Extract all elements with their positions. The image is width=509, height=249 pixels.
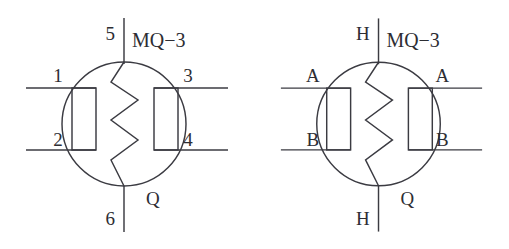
right-lower-pin-label: B	[436, 129, 449, 150]
diagram-svg-left: 5 MQ−3 6 Q 1 2 3 4	[0, 0, 255, 249]
top-lead-label: 5	[106, 23, 116, 44]
sensing-element-zigzag	[111, 62, 138, 186]
left-upper-pin-label: 1	[53, 65, 63, 86]
left-heater-box	[327, 88, 351, 150]
figure-sheet: 5 MQ−3 6 Q 1 2 3 4 H MQ−3 H Q A	[0, 0, 509, 249]
left-heater-box	[72, 88, 96, 150]
right-upper-pin-label: A	[435, 65, 449, 86]
output-label: Q	[146, 188, 160, 209]
sensor-envelope-circle	[317, 62, 441, 186]
sensing-element-zigzag	[366, 62, 393, 186]
part-number-label: MQ−3	[386, 29, 439, 51]
sensor-envelope-circle	[62, 62, 186, 186]
right-heater-box	[408, 88, 432, 150]
bottom-lead-label: 6	[106, 208, 116, 229]
diagram-lettered-pinout: H MQ−3 H Q A B A B	[255, 0, 509, 249]
diagram-svg-right: H MQ−3 H Q A B A B	[255, 0, 509, 249]
right-heater-box	[154, 88, 178, 150]
part-number-label: MQ−3	[132, 29, 186, 51]
left-lower-pin-label: B	[306, 129, 319, 150]
bottom-lead-label: H	[356, 208, 370, 229]
right-lower-pin-label: 4	[183, 129, 193, 150]
output-label: Q	[400, 188, 414, 209]
left-lower-pin-label: 2	[53, 129, 63, 150]
top-lead-label: H	[356, 23, 370, 44]
diagram-numbered-pinout: 5 MQ−3 6 Q 1 2 3 4	[0, 0, 255, 249]
left-upper-pin-label: A	[306, 65, 320, 86]
right-upper-pin-label: 3	[183, 65, 193, 86]
